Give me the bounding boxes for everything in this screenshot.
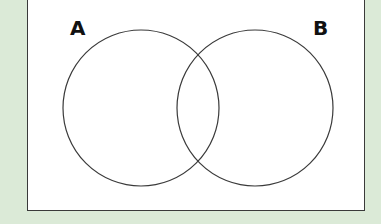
set-b-label: B [313,18,328,38]
set-a-circle [63,30,219,186]
set-a-label: A [70,18,85,38]
set-b-circle [177,30,333,186]
